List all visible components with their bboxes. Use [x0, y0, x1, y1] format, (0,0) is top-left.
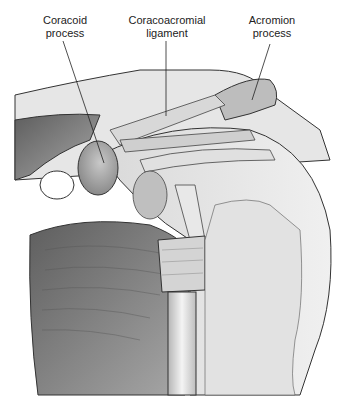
label-coracoid-process: Coracoid process — [38, 14, 92, 40]
shoulder-illustration — [0, 0, 355, 418]
label-line: Acromion — [244, 14, 300, 27]
label-line: Coracoacromial — [126, 14, 208, 27]
label-acromion-process: Acromion process — [244, 14, 300, 40]
anatomy-figure: Coracoid process Coracoacromial ligament… — [0, 0, 355, 418]
label-line: ligament — [126, 27, 208, 40]
label-line: process — [244, 27, 300, 40]
label-line: process — [38, 27, 92, 40]
label-line: Coracoid — [38, 14, 92, 27]
label-coracoacromial-ligament: Coracoacromial ligament — [126, 14, 208, 40]
